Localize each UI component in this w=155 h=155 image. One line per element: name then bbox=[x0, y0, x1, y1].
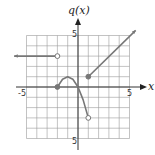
plot-pieces bbox=[14, 30, 136, 120]
open-endpoint bbox=[55, 54, 60, 59]
right-ray-line bbox=[88, 30, 135, 76]
y-axis-arrow-icon bbox=[75, 18, 81, 25]
x-tick-max: 5 bbox=[127, 89, 132, 98]
x-axis-arrow-icon bbox=[140, 84, 147, 90]
arrowhead-icon bbox=[14, 54, 18, 57]
x-tick-min: -5 bbox=[18, 89, 26, 98]
function-graph: q(x) x -5 5 5 5 bbox=[0, 0, 155, 155]
y-axis-title: q(x) bbox=[68, 4, 90, 17]
y-tick-min: 5 bbox=[72, 137, 77, 146]
y-tick-max: 5 bbox=[72, 30, 77, 39]
closed-endpoint bbox=[86, 74, 91, 79]
closed-endpoint bbox=[55, 85, 60, 90]
open-endpoint bbox=[86, 116, 91, 121]
x-axis-title: x bbox=[148, 80, 155, 93]
